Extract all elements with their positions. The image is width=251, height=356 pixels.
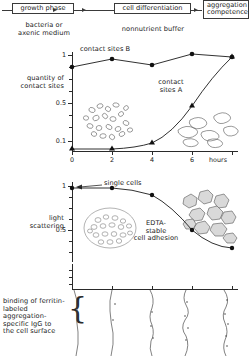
panel1-cell-drawing-single [83, 102, 133, 140]
panel2-plot [66, 176, 246, 266]
panel3-ferritin-particles [112, 299, 229, 347]
panel1-ylabel-line2: contact sites [4, 83, 64, 91]
panel2-pointer-arrowhead-icon [76, 185, 82, 190]
flow-diagram: growth phase cell differentiation aggreg… [0, 0, 251, 50]
panel3-xtick-6 [192, 286, 193, 289]
panel-igg-binding: binding of ferritin- labeled aggregation… [0, 262, 251, 356]
flow-box-cell-differentiation: cell differentiation [114, 3, 191, 14]
panel2-cell-drawing-single-mass [84, 208, 136, 248]
panel3-xtick-4 [152, 286, 153, 289]
panel1-cell-drawing-aggregate [178, 113, 238, 148]
flow-caption-growth: bacteria or axenic medium [6, 22, 82, 37]
panel1-ytick-label-05: 0.5 [44, 99, 66, 107]
panel2-ytick-label-1: 1 [44, 182, 66, 190]
panel3-trace-2 [110, 290, 114, 356]
panel3-label-line4: the cell surface [3, 328, 69, 336]
flow-arrow-2-icon [82, 8, 86, 12]
flow-box3-line2: competence [207, 9, 245, 16]
panel3-label-line2: labeled aggregation- [3, 306, 69, 321]
flow-lead-in-line [2, 10, 12, 11]
panel3-label: binding of ferritin- labeled aggregation… [3, 298, 69, 336]
panel3-xtick-2 [112, 286, 113, 289]
panel2-ytick-label-05: 0.5 [44, 226, 66, 234]
panel1-ylabel: quantity of contact sites [4, 75, 64, 90]
panel3-trace-1 [74, 290, 78, 356]
panel1-ytick-label-1: 1 [44, 51, 66, 59]
flow-box-aggregation-competence: aggregation competence [203, 0, 249, 19]
panel3-xtick-8 [232, 286, 233, 289]
flow-connector-2 [88, 10, 114, 11]
panel2-cell-drawing-aggregates [183, 190, 237, 243]
panel1-series-a-markers [69, 54, 235, 151]
panel3-ytick-minor-1 [69, 270, 73, 271]
panel3-ytick-minor-2 [69, 277, 73, 278]
panel1-series-b-markers [70, 52, 235, 70]
panel1-ytick-label-01: 0.1 [44, 137, 66, 145]
flow-arrow-1-icon [53, 8, 57, 12]
panel-contact-sites: quantity of contact sites 1 0.5 0.1 0 2 … [0, 48, 251, 166]
panel2-single-cells-pointer-icon [80, 185, 102, 187]
panel3-trace-4 [183, 290, 189, 356]
flow-box-growth-phase: growth phase [12, 3, 74, 14]
panel1-series-a-line [72, 57, 232, 149]
flow-arrow-3-icon [194, 8, 198, 12]
figure-root: growth phase cell differentiation aggreg… [0, 0, 251, 356]
panel3-micrograph-traces [66, 290, 246, 356]
flow-caption-buffer: nonnutrient buffer [110, 26, 196, 34]
panel3-trace-3 [150, 290, 153, 356]
panel1-plot [66, 48, 246, 158]
panel-light-scattering: light scattering 1 0.5 single cells EDTA… [0, 176, 251, 266]
panel3-xtick-0 [72, 285, 73, 288]
flow-caption-growth-line2: axenic medium [6, 30, 82, 38]
